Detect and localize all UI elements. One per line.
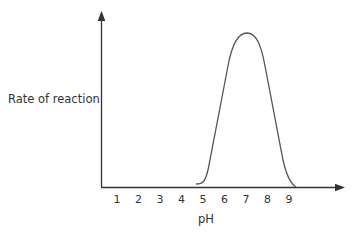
x-tick-1: 1 (109, 193, 125, 206)
x-axis-label: pH (198, 212, 214, 226)
x-tick-7: 7 (238, 193, 254, 206)
x-tick-4: 4 (174, 193, 190, 206)
y-axis-label: Rate of reaction (8, 92, 100, 106)
x-tick-8: 8 (260, 193, 276, 206)
x-tick-2: 2 (131, 193, 147, 206)
rate-curve (196, 33, 296, 187)
x-tick-5: 5 (195, 193, 211, 206)
x-tick-3: 3 (152, 193, 168, 206)
x-tick-6: 6 (217, 193, 233, 206)
x-tick-9: 9 (281, 193, 297, 206)
